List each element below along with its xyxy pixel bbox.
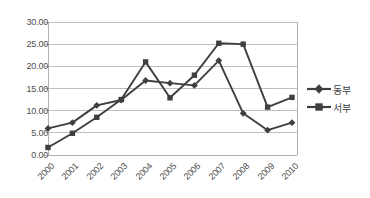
- legend-label-dongbu: 동부: [332, 82, 351, 97]
- x-axis-label: 2007: [206, 161, 227, 182]
- x-axis-label: 2001: [60, 161, 81, 182]
- x-axis-label: 2000: [36, 161, 57, 182]
- x-axis-label: 2002: [84, 161, 105, 182]
- legend-item-dongbu[interactable]: 동부: [306, 80, 368, 98]
- x-axis-label: 2008: [231, 161, 252, 182]
- chart-legend: 동부 서부: [306, 80, 368, 116]
- line-chart: 0.005.0010.0015.0020.0025.0030.00 200020…: [0, 0, 370, 198]
- x-axis-label: 2010: [280, 161, 301, 182]
- x-axis-label: 2009: [255, 161, 276, 182]
- diamond-marker-icon: [306, 82, 332, 96]
- x-axis-label: 2003: [109, 161, 130, 182]
- legend-item-seobu[interactable]: 서부: [306, 98, 368, 116]
- x-axis-label: 2006: [182, 161, 203, 182]
- square-marker-icon: [306, 100, 332, 114]
- x-axis-label: 2005: [158, 161, 179, 182]
- x-axis-label: 2004: [133, 161, 154, 182]
- legend-label-seobu: 서부: [332, 100, 351, 115]
